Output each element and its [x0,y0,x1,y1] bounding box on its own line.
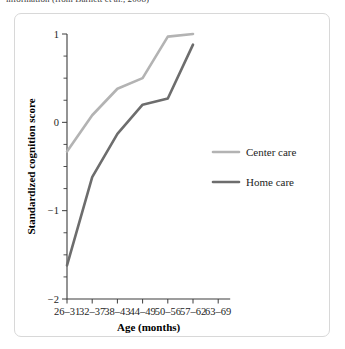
y-axis-tick-label: −2 [48,294,59,305]
line-chart: 10−1−226–3132–3738–4344–4950–5657–6263–6… [15,14,331,338]
y-axis-tick-label: 1 [54,29,59,40]
y-axis-tick-label: −1 [48,205,59,216]
x-axis-tick-label: 63–69 [205,306,231,317]
x-axis-tick-label: 38–43 [104,306,130,317]
series-line-center-care [67,34,193,151]
y-axis-tick-label: 0 [54,117,59,128]
legend-label-center-care: Center care [246,146,296,158]
x-axis-tick-label: 44–49 [129,306,155,317]
figure-caption: information (from Barnett et al., 2008) [6,0,149,4]
figure-frame: 10−1−226–3132–3738–4344–4950–5657–6263–6… [14,13,330,337]
legend-label-home-care: Home care [246,176,294,188]
series-line-home-care [67,45,193,266]
x-axis-tick-label: 26–31 [54,306,80,317]
x-axis-tick-label: 57–62 [180,306,206,317]
y-axis-title: Standardized cognition score [25,98,37,234]
x-axis-tick-label: 32–37 [79,306,105,317]
chart-axes [67,34,230,299]
x-axis-title: Age (months) [117,321,181,334]
x-axis-tick-label: 50–56 [155,306,181,317]
